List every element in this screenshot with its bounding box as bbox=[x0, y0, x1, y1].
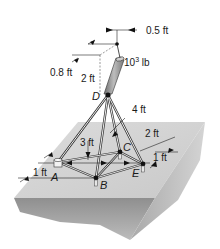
label-depth-AC: 3 ft bbox=[80, 137, 94, 148]
label-height-D: 4 ft bbox=[132, 104, 146, 115]
joint-B bbox=[94, 176, 99, 181]
point-label-A: A bbox=[50, 171, 58, 183]
point-label-C: C bbox=[123, 141, 131, 153]
label-load: 103 lb bbox=[124, 56, 150, 68]
label-offset-E: 1 ft bbox=[153, 152, 167, 163]
joint-A-support bbox=[54, 158, 62, 167]
load-point bbox=[115, 42, 119, 46]
label-spacing-CE: 2 ft bbox=[145, 128, 159, 139]
label-offset-x: 0.5 ft bbox=[146, 25, 168, 36]
joint-C bbox=[118, 150, 123, 155]
point-label-B: B bbox=[100, 179, 107, 191]
point-label-E: E bbox=[132, 167, 140, 179]
label-offset-z: 0.8 ft bbox=[50, 67, 72, 78]
pole bbox=[104, 44, 125, 94]
label-offset-A: 1 ft bbox=[33, 167, 47, 178]
load-unit: lb bbox=[139, 57, 150, 68]
label-pole-height: 2 ft bbox=[81, 73, 95, 84]
point-label-D: D bbox=[92, 90, 100, 102]
joint-D bbox=[105, 92, 110, 97]
truss-diagram: 0.5 ft 0.8 ft 2 ft 103 lb 4 ft 3 ft 2 ft… bbox=[0, 0, 220, 249]
joint-E bbox=[141, 162, 146, 167]
base-block bbox=[14, 122, 205, 240]
load-base: 10 bbox=[124, 57, 136, 68]
